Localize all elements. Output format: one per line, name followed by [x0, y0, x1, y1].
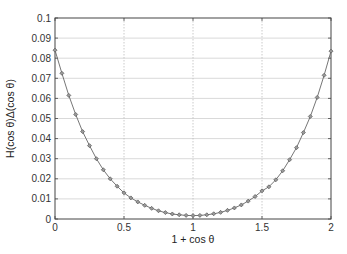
data-point-marker: [88, 144, 92, 148]
data-point-marker: [301, 131, 305, 135]
y-tick-label: 0.01: [32, 193, 52, 204]
x-tick-label: 0.5: [117, 222, 131, 233]
data-point-marker: [232, 206, 236, 210]
y-tick-label: 0.07: [32, 73, 52, 84]
data-point-marker: [177, 213, 181, 217]
y-axis-label: H(cos θ)Δ(cos θ): [4, 79, 16, 158]
data-point-marker: [136, 200, 140, 204]
data-point-marker: [295, 146, 299, 150]
data-point-marker: [157, 209, 161, 213]
data-point-marker: [143, 203, 147, 207]
y-tick-label: 0: [45, 214, 51, 225]
data-point-marker: [212, 212, 216, 216]
y-tick-label: 0.1: [37, 13, 51, 24]
data-point-marker: [308, 114, 312, 118]
y-tick-label: 0.06: [32, 93, 52, 104]
grid-lines: [55, 18, 331, 219]
x-tick-label: 1.5: [255, 222, 269, 233]
y-tick-label: 0.03: [32, 153, 52, 164]
data-point-marker: [205, 213, 209, 217]
x-axis-label: 1 + cos θ: [172, 233, 215, 245]
data-point-marker: [239, 203, 243, 207]
data-point-marker: [170, 212, 174, 216]
y-tick-label: 0.05: [32, 113, 52, 124]
data-point-marker: [53, 48, 57, 52]
y-tick-label: 0.08: [32, 53, 52, 64]
data-point-marker: [81, 130, 85, 134]
y-tick-label: 0.02: [32, 173, 52, 184]
data-point-marker: [184, 213, 188, 217]
data-point-marker: [226, 208, 230, 212]
data-point-marker: [60, 71, 64, 75]
x-axis-ticks: 00.511.52: [52, 18, 334, 233]
y-tick-label: 0.09: [32, 33, 52, 44]
data-point-marker: [219, 210, 223, 214]
data-point-marker: [74, 112, 78, 116]
data-point-marker: [191, 214, 195, 218]
data-point-marker: [322, 73, 326, 77]
x-tick-label: 0: [52, 222, 58, 233]
data-point-marker: [150, 206, 154, 210]
data-point-marker: [198, 213, 202, 217]
data-point-marker: [67, 93, 71, 97]
x-tick-label: 2: [328, 222, 334, 233]
x-tick-label: 1: [190, 222, 196, 233]
data-point-marker: [329, 49, 333, 53]
data-point-marker: [163, 211, 167, 215]
chart: 00.010.020.030.040.050.060.070.080.090.1…: [0, 0, 347, 254]
y-tick-label: 0.04: [32, 133, 52, 144]
